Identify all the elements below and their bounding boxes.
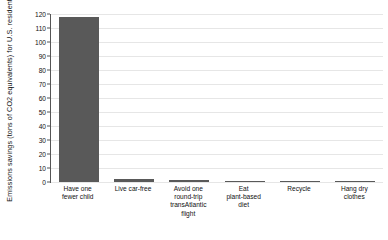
- bar-series: [51, 14, 383, 182]
- bar-slot: [328, 14, 383, 182]
- y-axis-tick-label: 0: [42, 179, 46, 186]
- y-axis-tick-label: 110: [35, 25, 46, 32]
- x-axis-category-labels: Have onefewer childLive car-freeAvoid on…: [50, 185, 382, 237]
- x-axis-category-label-line: Hang dry: [328, 185, 381, 193]
- gridline: [51, 182, 383, 183]
- x-axis-category-label: Hang dryclothes: [327, 185, 382, 237]
- x-axis-category-label-line: Eat: [217, 185, 270, 193]
- x-axis-category-label-line: Avoid one: [162, 185, 215, 193]
- y-axis-title-text: Emissions savings (tons of CO2 equivalen…: [5, 0, 14, 201]
- bar-slot: [162, 14, 217, 182]
- bar-slot: [217, 14, 272, 182]
- y-axis-tick-label: 40: [39, 123, 46, 130]
- bar: [114, 179, 154, 182]
- x-axis-category-label: Have onefewer child: [50, 185, 105, 237]
- x-axis-category-label-line: transAtlantic: [162, 201, 215, 209]
- y-axis-tick-label: 70: [39, 81, 46, 88]
- bar-slot: [106, 14, 161, 182]
- y-axis-tick-label: 10: [39, 165, 46, 172]
- x-axis-category-label-line: plant-based: [217, 193, 270, 201]
- y-axis-tick-label: 20: [39, 151, 46, 158]
- y-axis-tick-label: 80: [39, 67, 46, 74]
- y-axis-tick-label: 60: [39, 95, 46, 102]
- x-axis-category-label-line: fewer child: [51, 193, 104, 201]
- bar: [280, 181, 320, 182]
- x-axis-category-label-line: Live car-free: [106, 185, 159, 193]
- bar: [335, 181, 375, 182]
- y-axis-tick-label: 50: [39, 109, 46, 116]
- bar: [169, 180, 209, 182]
- x-axis-category-label: Recycle: [271, 185, 326, 237]
- y-axis-title: Emissions savings (tons of CO2 equivalen…: [0, 0, 18, 196]
- x-axis-category-label-line: diet: [217, 201, 270, 209]
- x-axis-category-label: Live car-free: [105, 185, 160, 237]
- y-axis-tick-labels: 0102030405060708090100110120: [18, 0, 50, 196]
- x-axis-category-label-line: clothes: [328, 193, 381, 201]
- y-axis-tick-label: 90: [39, 53, 46, 60]
- x-axis-category-label-line: flight: [162, 210, 215, 218]
- plot-area: [50, 14, 383, 183]
- bar-slot: [51, 14, 106, 182]
- y-axis-tick-label: 100: [35, 39, 46, 46]
- bar: [59, 17, 99, 182]
- y-axis-tick-label: 30: [39, 137, 46, 144]
- x-axis-category-label-line: Recycle: [272, 185, 325, 193]
- emissions-savings-bar-chart: Emissions savings (tons of CO2 equivalen…: [0, 0, 388, 240]
- x-axis-category-label-line: Have one: [51, 185, 104, 193]
- bar: [225, 181, 265, 182]
- bar-slot: [272, 14, 327, 182]
- x-axis-category-label: Eatplant-baseddiet: [216, 185, 271, 237]
- y-axis-tick-label: 120: [35, 11, 46, 18]
- x-axis-category-label-line: round-trip: [162, 193, 215, 201]
- x-axis-category-label: Avoid oneround-triptransAtlanticflight: [161, 185, 216, 237]
